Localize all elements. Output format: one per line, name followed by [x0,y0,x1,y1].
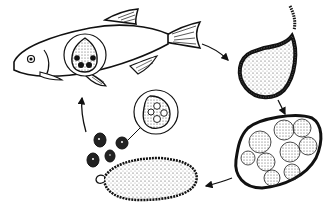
arrow-fish-to-tomont [202,44,228,60]
arrow-theronts-to-fish [82,98,86,132]
released-cyst-icon [96,158,197,200]
arrow-dividing-to-released [206,178,232,186]
fish-icon [14,9,200,86]
tomont-cyst-icon [240,6,296,97]
arrow-tomont-to-dividing [278,100,285,114]
theront-detail-inset-icon [128,90,178,140]
dividing-cyst-icon [236,116,321,188]
theronts-icon [87,133,128,167]
life-cycle-diagram: life-cycle [0,0,332,211]
